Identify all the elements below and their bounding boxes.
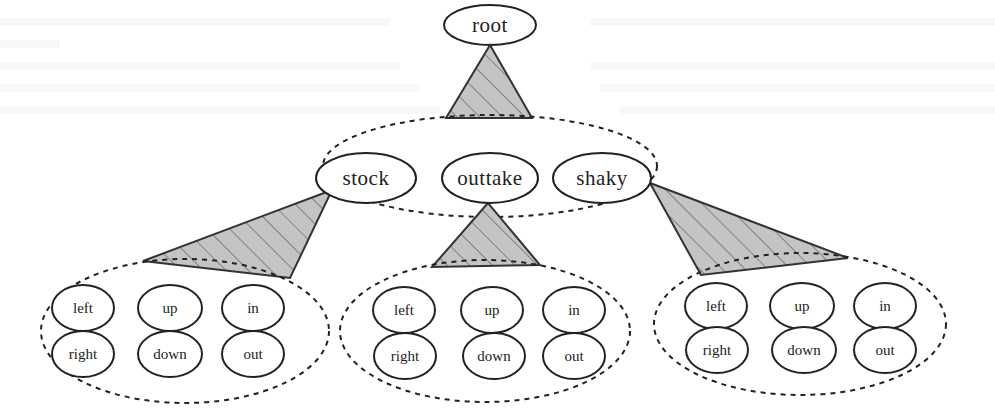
expansion-triangle-shaky (650, 183, 848, 275)
node-in-label: in (568, 302, 580, 318)
node-in-label: in (247, 300, 259, 316)
level1-node-shaky: shaky (553, 153, 651, 203)
node-down-label: down (153, 346, 187, 362)
shaky-label: shaky (576, 166, 628, 190)
node-right-label: right (391, 348, 420, 364)
level1-node-stock: stock (316, 153, 416, 203)
node-out-label: out (564, 348, 584, 364)
node-down-label: down (787, 342, 821, 358)
level2-group-stock: left up in right down out (41, 259, 329, 403)
root-label: root (472, 13, 508, 37)
level1-group: stock outtake shaky (143, 115, 848, 278)
node-left-label: left (706, 298, 727, 314)
expansion-triangle-root (446, 45, 532, 118)
node-right-label: right (703, 342, 732, 358)
hierarchy-diagram: root stock outtake shaky left up in (0, 0, 995, 415)
expansion-triangle-outtake (432, 203, 540, 267)
node-in-label: in (879, 298, 891, 314)
node-down-label: down (477, 348, 511, 364)
node-up-label: up (795, 298, 810, 314)
expansion-triangle-stock (143, 190, 332, 278)
level2-group-outtake: left up in right down out (340, 260, 630, 402)
level2-group-shaky: left up in right down out (654, 253, 946, 395)
stock-label: stock (343, 166, 390, 190)
node-out-label: out (875, 342, 895, 358)
node-left-label: left (394, 302, 415, 318)
node-up-label: up (485, 302, 500, 318)
node-right-label: right (69, 346, 98, 362)
root-node: root (444, 5, 536, 45)
node-up-label: up (163, 300, 178, 316)
node-left-label: left (73, 300, 94, 316)
outtake-label: outtake (457, 166, 522, 190)
node-out-label: out (243, 346, 263, 362)
level1-node-outtake: outtake (442, 153, 538, 203)
